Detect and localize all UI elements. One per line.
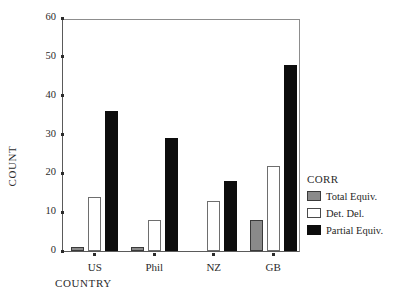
y-axis-label: COUNT	[6, 126, 18, 206]
y-tick-mark	[61, 172, 64, 175]
y-tick-mark	[61, 17, 64, 20]
legend: CORR Total Equiv.Det. Del.Partial Equiv.	[307, 173, 407, 240]
x-tick-mark	[212, 253, 215, 256]
x-tick-label: NZ	[184, 261, 244, 273]
y-tick-mark	[61, 211, 64, 214]
legend-label: Partial Equiv.	[326, 225, 383, 236]
bar	[71, 247, 84, 251]
y-tick-mark	[61, 133, 64, 136]
x-tick-label: Phil	[124, 261, 184, 273]
bar	[250, 220, 263, 251]
bar	[88, 197, 101, 251]
bar	[165, 138, 178, 251]
plot-area: 0102030405060 USPhilNZGB	[62, 19, 300, 252]
y-tick-label: 30	[46, 128, 57, 139]
legend-entry[interactable]: Total Equiv.	[307, 189, 407, 203]
y-tick-mark	[61, 55, 64, 58]
y-tick-label: 60	[46, 11, 57, 22]
x-tick-label: GB	[243, 261, 303, 273]
y-tick-mark	[61, 94, 64, 97]
bar	[207, 201, 220, 251]
bar	[284, 65, 297, 251]
x-tick-mark	[272, 253, 275, 256]
y-tick-label: 50	[46, 50, 57, 61]
bar	[105, 111, 118, 251]
legend-entry[interactable]: Partial Equiv.	[307, 223, 407, 237]
legend-swatch	[307, 208, 321, 218]
bar	[267, 166, 280, 251]
y-tick-mark	[61, 250, 64, 253]
y-tick-label: 0	[51, 244, 56, 255]
legend-entry[interactable]: Det. Del.	[307, 206, 407, 220]
legend-label: Total Equiv.	[326, 191, 377, 202]
x-tick-mark	[93, 253, 96, 256]
legend-swatch	[307, 191, 321, 201]
bar	[224, 181, 237, 251]
y-tick-label: 20	[46, 166, 57, 177]
legend-entries: Total Equiv.Det. Del.Partial Equiv.	[307, 189, 407, 237]
y-tick-label: 40	[46, 89, 57, 100]
x-tick-label: US	[65, 261, 125, 273]
legend-swatch	[307, 225, 321, 235]
legend-label: Det. Del.	[326, 208, 364, 219]
bar	[131, 247, 144, 251]
y-tick-label: 10	[46, 205, 57, 216]
bar	[148, 220, 161, 251]
x-tick-mark	[153, 253, 156, 256]
legend-title: CORR	[307, 173, 407, 185]
x-axis-label: COUNTRY	[55, 277, 112, 289]
bar-chart: COUNT COUNTRY 0102030405060 USPhilNZGB C…	[0, 0, 409, 307]
